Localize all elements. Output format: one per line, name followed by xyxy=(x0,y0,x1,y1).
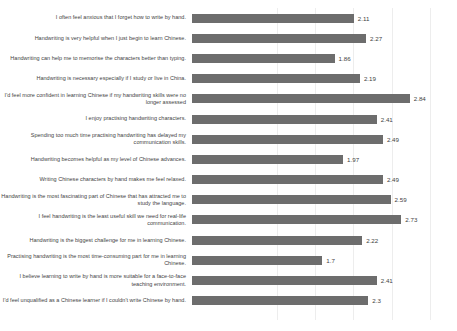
category-label: I feel handwriting is the least useful s… xyxy=(0,213,192,227)
bar-track: 2.41 xyxy=(192,109,457,129)
bar xyxy=(192,256,322,265)
bar-track: 2.19 xyxy=(192,69,457,89)
chart-bar-row: Handwriting can help me to memorise the … xyxy=(0,48,457,68)
bar xyxy=(192,115,377,124)
category-label: Spending too much time practising handwr… xyxy=(0,132,192,146)
bar-track: 1.97 xyxy=(192,149,457,169)
chart-bar-row: Practising handwriting is the most time-… xyxy=(0,250,457,270)
bar xyxy=(192,175,383,184)
bar-track: 2.73 xyxy=(192,210,457,230)
bar-track: 1.86 xyxy=(192,48,457,68)
bar-value-label: 2.49 xyxy=(387,136,399,143)
bar-track: 2.22 xyxy=(192,230,457,250)
category-label: Handwriting is very helpful when I just … xyxy=(0,35,192,42)
chart-bar-rows: I often feel anxious that I forget how t… xyxy=(0,8,457,311)
bar xyxy=(192,296,368,305)
bar xyxy=(192,155,343,164)
bar-chart: I often feel anxious that I forget how t… xyxy=(0,0,457,331)
chart-bar-row: I believe learning to write by hand is m… xyxy=(0,270,457,290)
chart-bar-row: I enjoy practising handwriting character… xyxy=(0,109,457,129)
bar-value-label: 2.41 xyxy=(381,116,393,123)
category-label: Handwriting is necessary especially if I… xyxy=(0,75,192,82)
category-label: I'd feel more confident in learning Chin… xyxy=(0,92,192,106)
bar-value-label: 2.22 xyxy=(366,237,378,244)
bar-value-label: 2.84 xyxy=(414,95,426,102)
bar-track: 2.41 xyxy=(192,270,457,290)
chart-bar-row: Handwriting becomes helpful as my level … xyxy=(0,149,457,169)
bar-value-label: 2.73 xyxy=(405,216,417,223)
bar-value-label: 2.49 xyxy=(387,176,399,183)
bar-track: 2.49 xyxy=(192,129,457,149)
bar xyxy=(192,135,383,144)
chart-bar-row: Spending too much time practising handwr… xyxy=(0,129,457,149)
bar-value-label: 1.7 xyxy=(326,257,335,264)
bar xyxy=(192,14,354,23)
category-label: Practising handwriting is the most time-… xyxy=(0,253,192,267)
chart-bar-row: Handwriting is the biggest challenge for… xyxy=(0,230,457,250)
bar-track: 2.3 xyxy=(192,291,457,311)
bar xyxy=(192,195,391,204)
bar xyxy=(192,34,366,43)
category-label: Handwriting is the biggest challenge for… xyxy=(0,237,192,244)
bar-value-label: 1.86 xyxy=(339,55,351,62)
bar-track: 2.27 xyxy=(192,28,457,48)
bar xyxy=(192,74,360,83)
bar-value-label: 2.3 xyxy=(372,297,381,304)
category-label: I often feel anxious that I forget how t… xyxy=(0,14,192,21)
chart-bar-row: I feel handwriting is the least useful s… xyxy=(0,210,457,230)
category-label: Writing Chinese characters by hand makes… xyxy=(0,176,192,183)
bar-value-label: 1.97 xyxy=(347,156,359,163)
bar xyxy=(192,215,401,224)
bar-track: 2.59 xyxy=(192,190,457,210)
bar xyxy=(192,54,335,63)
bar-value-label: 2.11 xyxy=(358,15,370,22)
bar-value-label: 2.41 xyxy=(381,277,393,284)
bar-value-label: 2.27 xyxy=(370,35,382,42)
category-label: Handwriting can help me to memorise the … xyxy=(0,55,192,62)
category-label: Handwriting is the most fascinating part… xyxy=(0,193,192,207)
chart-bar-row: Writing Chinese characters by hand makes… xyxy=(0,170,457,190)
bar-track: 2.84 xyxy=(192,89,457,109)
chart-bar-row: I often feel anxious that I forget how t… xyxy=(0,8,457,28)
chart-bar-row: I'd feel unqualified as a Chinese learne… xyxy=(0,291,457,311)
chart-bar-row: I'd feel more confident in learning Chin… xyxy=(0,89,457,109)
category-label: I believe learning to write by hand is m… xyxy=(0,273,192,287)
category-label: I'd feel unqualified as a Chinese learne… xyxy=(0,297,192,304)
bar xyxy=(192,236,362,245)
bar-value-label: 2.59 xyxy=(395,196,407,203)
bar xyxy=(192,94,410,103)
chart-bar-row: Handwriting is necessary especially if I… xyxy=(0,69,457,89)
chart-bar-row: Handwriting is very helpful when I just … xyxy=(0,28,457,48)
bar-track: 1.7 xyxy=(192,250,457,270)
bar-value-label: 2.19 xyxy=(364,75,376,82)
category-label: Handwriting becomes helpful as my level … xyxy=(0,156,192,163)
bar-track: 2.49 xyxy=(192,170,457,190)
bar xyxy=(192,276,377,285)
bar-track: 2.11 xyxy=(192,8,457,28)
chart-bar-row: Handwriting is the most fascinating part… xyxy=(0,190,457,210)
category-label: I enjoy practising handwriting character… xyxy=(0,115,192,122)
